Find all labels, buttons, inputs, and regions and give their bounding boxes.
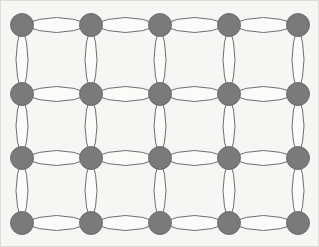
graph-node xyxy=(218,14,241,37)
graph-node xyxy=(149,14,172,37)
graph-node xyxy=(287,147,310,170)
graph-node xyxy=(80,14,103,37)
graph-node xyxy=(11,212,34,235)
graph-figure xyxy=(0,0,319,247)
graph-node xyxy=(149,83,172,106)
graph-node xyxy=(149,147,172,170)
graph-node xyxy=(149,212,172,235)
graph-node xyxy=(11,83,34,106)
graph-node xyxy=(80,83,103,106)
graph-node xyxy=(11,14,34,37)
graph-node xyxy=(11,147,34,170)
graph-node xyxy=(218,147,241,170)
graph-node xyxy=(218,83,241,106)
graph-node xyxy=(80,212,103,235)
graph-node xyxy=(80,147,103,170)
graph-node xyxy=(218,212,241,235)
graph-node xyxy=(287,212,310,235)
graph-canvas xyxy=(0,0,319,247)
graph-node xyxy=(287,83,310,106)
graph-node xyxy=(287,14,310,37)
